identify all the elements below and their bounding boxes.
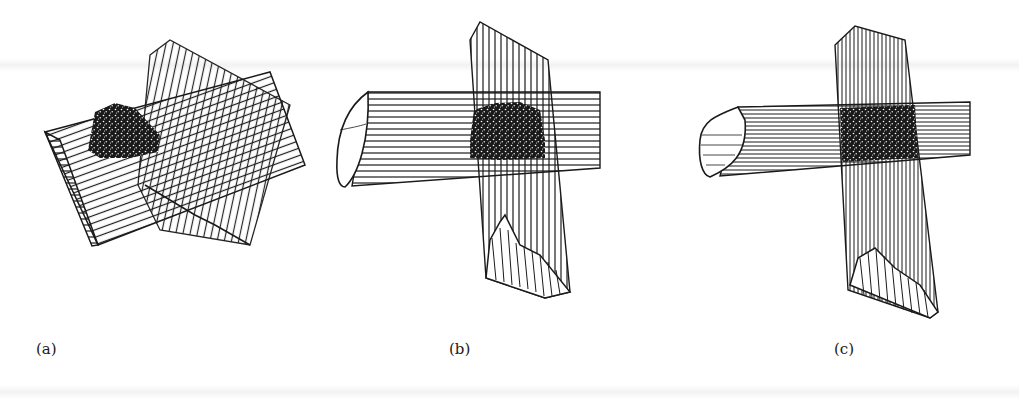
panel-a-drawing (45, 40, 305, 246)
panel-b-drawing (337, 22, 600, 298)
panel-label-a: (a) (36, 340, 57, 358)
figure-drawings (0, 0, 1019, 403)
panel-label-b: (b) (449, 340, 470, 358)
panel-c-drawing (699, 26, 970, 318)
panel-label-c: (c) (834, 340, 854, 358)
